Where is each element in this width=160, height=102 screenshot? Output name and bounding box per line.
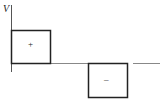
y-axis-label: V bbox=[3, 3, 9, 14]
positive-pulse-label: + bbox=[28, 39, 33, 49]
negative-pulse-label: – bbox=[104, 74, 109, 84]
bipolar-pulse-diagram bbox=[0, 0, 160, 102]
